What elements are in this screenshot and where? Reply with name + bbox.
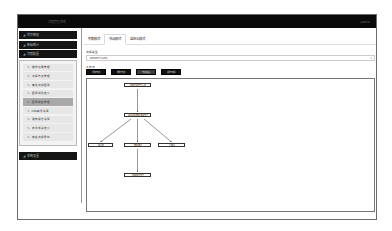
sidebar-item[interactable]: ✎配置规则定义 xyxy=(23,90,73,98)
sidebar-item[interactable]: ✎流程节点管理 xyxy=(23,72,73,80)
flow-type-select[interactable]: DOOOTYLVPS ▾ xyxy=(86,55,375,61)
sidebar-item[interactable]: ✎模板流程导出 xyxy=(23,133,73,141)
flow-node-withdraw[interactable]: 已撤回 xyxy=(158,143,185,147)
sidebar: ◢ 首页概览 ◢ 数据统计 ◢ 流程配置 ✎操作记录管理 ✎流程节点管理 ✎审批… xyxy=(19,31,77,216)
chevron-down-icon: ▾ xyxy=(371,57,372,60)
sidebar-item-active[interactable]: ✎配置模板管理 xyxy=(23,98,73,106)
mode-tabs: 列表模式 节点模式 自定义模式 xyxy=(84,34,376,45)
tab-node-mode[interactable]: 节点模式 xyxy=(104,34,126,45)
sidebar-section-label: 流程配置 xyxy=(27,52,39,56)
sidebar-item[interactable]: ✎表单字段定义 xyxy=(23,124,73,132)
sidebar-submenu: ✎操作记录管理 ✎流程节点管理 ✎审批流程配置 ✎配置规则定义 ✎配置模板管理 … xyxy=(19,60,77,146)
sidebar-item-label: 表单字段定义 xyxy=(32,126,50,130)
pencil-icon: ✎ xyxy=(27,74,30,78)
tab-list-mode[interactable]: 列表模式 xyxy=(84,33,104,44)
flow-node-approve[interactable]: 审批通过 xyxy=(124,143,151,147)
sidebar-item[interactable]: ✎通知消息设置 xyxy=(23,116,73,124)
pencil-icon: ✎ xyxy=(27,65,30,69)
flow-node-reject[interactable]: 驳回处 xyxy=(88,143,113,147)
pencil-icon: ✎ xyxy=(27,91,30,95)
pencil-icon: ✎ xyxy=(27,100,30,104)
flowchart-canvas[interactable]: 流程开始节点入口 条件判断审批流程节点 驳回处 审批通过 已撤回 流程结束节点 xyxy=(86,78,375,212)
chart-icon: ◢ xyxy=(23,52,25,56)
sidebar-item-label: 配置规则定义 xyxy=(32,91,50,95)
pencil-icon: ✎ xyxy=(27,126,30,130)
tab-custom-mode[interactable]: 自定义模式 xyxy=(126,33,149,44)
chart-icon: ◢ xyxy=(23,43,25,47)
flow-node-start[interactable]: 流程开始节点入口 xyxy=(124,83,151,87)
sidebar-section-home[interactable]: ◢ 首页概览 xyxy=(19,31,77,39)
app-title: 流程管理系统 xyxy=(48,20,66,24)
pencil-icon: ✎ xyxy=(27,117,30,121)
add-node-button[interactable]: 添加节点 xyxy=(86,69,106,75)
sidebar-section-label: 数据统计 xyxy=(27,43,39,47)
flow-node-decision[interactable]: 条件判断审批流程节点 xyxy=(124,113,151,117)
workflow-toolbar: 添加节点 删除节点 节点连接 保存流程 xyxy=(86,69,181,75)
flow-type-label: 流程类型 xyxy=(86,50,98,54)
sidebar-item[interactable]: ✎审批流程配置 xyxy=(23,81,73,89)
flow-type-value: DOOOTYLVPS xyxy=(90,57,107,60)
sidebar-item-label: 通知消息设置 xyxy=(32,117,50,121)
sidebar-item-label: 配置模板管理 xyxy=(32,100,50,104)
sidebar-item-label: 审批流程配置 xyxy=(32,83,50,87)
pencil-icon: ✎ xyxy=(27,135,30,139)
top-navbar: 流程管理系统 admin xyxy=(18,15,376,28)
sidebar-section-label: 首页概览 xyxy=(27,33,39,37)
sidebar-section-stats[interactable]: ◢ 数据统计 xyxy=(19,41,77,49)
sidebar-section-settings[interactable]: ◢ 系统设置 xyxy=(19,152,77,160)
sidebar-item-label: 模板流程导出 xyxy=(32,135,50,139)
sidebar-divider xyxy=(81,28,82,203)
sidebar-item[interactable]: ✎操作记录管理 xyxy=(23,64,73,72)
sidebar-item-label: 流程节点管理 xyxy=(32,74,50,78)
pencil-icon: ✎ xyxy=(27,109,30,113)
sidebar-section-label: 系统设置 xyxy=(27,154,39,158)
connect-node-button[interactable]: 节点连接 xyxy=(136,69,156,75)
chart-icon: ◢ xyxy=(23,33,25,37)
save-flow-button[interactable]: 保存流程 xyxy=(161,69,181,75)
chart-icon: ◢ xyxy=(23,154,25,158)
delete-node-button[interactable]: 删除节点 xyxy=(111,69,131,75)
sidebar-item[interactable]: ✎CMS条件设置 xyxy=(23,107,73,115)
sidebar-item-label: 操作记录管理 xyxy=(32,65,50,69)
pencil-icon: ✎ xyxy=(27,83,30,87)
user-menu[interactable]: admin xyxy=(361,20,370,24)
flow-node-end[interactable]: 流程结束节点 xyxy=(124,173,151,177)
sidebar-section-config[interactable]: ◢ 流程配置 xyxy=(19,50,77,58)
sidebar-item-label: CMS条件设置 xyxy=(32,109,50,113)
main-content: 列表模式 节点模式 自定义模式 流程类型 DOOOTYLVPS ▾ 工作流 添加… xyxy=(84,28,376,216)
